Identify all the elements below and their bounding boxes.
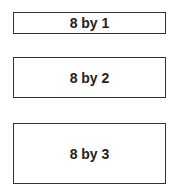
box-8-by-2: 8 by 2 [13,57,166,98]
box-label: 8 by 3 [70,146,110,162]
box-8-by-1: 8 by 1 [13,12,166,34]
box-8-by-3: 8 by 3 [13,123,166,184]
box-label: 8 by 2 [70,70,110,86]
box-label: 8 by 1 [70,15,110,31]
